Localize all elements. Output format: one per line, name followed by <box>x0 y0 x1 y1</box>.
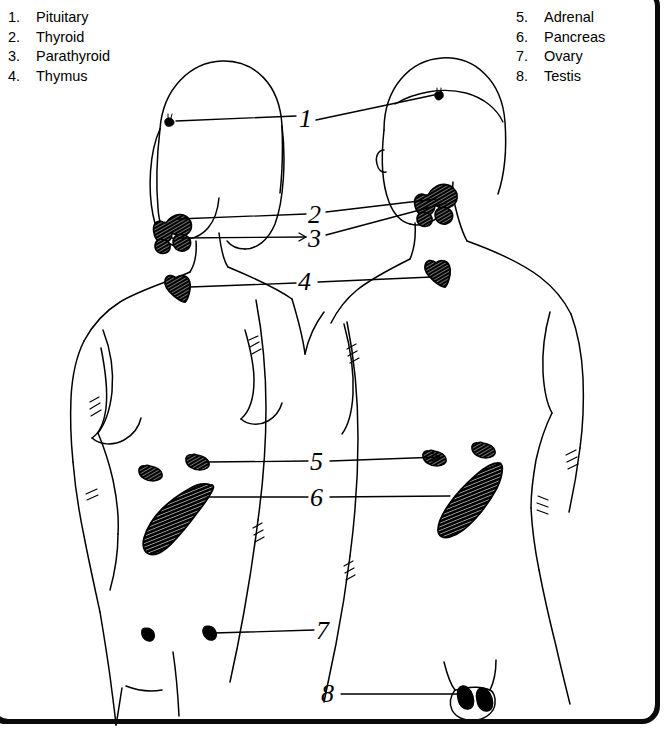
callout-number-4: 4 <box>298 267 311 296</box>
legend-item-ovary: 7. Ovary <box>516 47 605 67</box>
leader-1-female <box>176 116 296 121</box>
legend-label: Pituitary <box>36 8 88 28</box>
legend-left: 1. Pituitary 2. Thyroid 3. Parathyroid 4… <box>8 8 110 86</box>
legend-item-pancreas: 6. Pancreas <box>516 28 605 48</box>
legend-number: 3. <box>8 47 36 67</box>
legend-number: 8. <box>516 67 544 87</box>
leader-2-female <box>178 214 306 219</box>
legend-label: Adrenal <box>544 8 594 28</box>
gland-pituitary-female <box>165 114 174 126</box>
legend-label: Thymus <box>36 67 88 87</box>
callout-number-7: 7 <box>316 616 330 645</box>
legend-number: 2. <box>8 28 36 48</box>
callout-number-5: 5 <box>310 447 323 476</box>
gland-adrenal-female <box>139 454 209 481</box>
legend-number: 4. <box>8 67 36 87</box>
callout-numbers: 1 2 3 4 5 6 7 8 <box>298 104 334 708</box>
gland-pituitary-male <box>435 88 444 100</box>
endocrine-diagram-svg: 1 2 3 4 5 6 7 8 <box>0 0 669 736</box>
legend-item-parathyroid: 3. Parathyroid <box>8 47 110 67</box>
legend-number: 5. <box>516 8 544 28</box>
gland-thyroid-parathyroid-female <box>153 215 191 254</box>
leader-1-male <box>316 95 434 120</box>
legend-right: 5. Adrenal 6. Pancreas 7. Ovary 8. Testi… <box>516 8 605 86</box>
leader-6-male <box>330 496 450 497</box>
gland-pancreas-male <box>438 463 502 538</box>
legend-label: Testis <box>544 67 581 87</box>
legend-number: 1. <box>8 8 36 28</box>
gland-thymus-male <box>425 261 450 287</box>
gland-ovary-female <box>142 626 217 641</box>
callout-number-8: 8 <box>321 679 334 708</box>
leader-4-female <box>190 283 296 287</box>
leader-5-female <box>206 461 308 462</box>
legend-item-pituitary: 1. Pituitary <box>8 8 110 28</box>
legend-label: Pancreas <box>544 28 605 48</box>
legend-number: 7. <box>516 47 544 67</box>
male-torso-outline <box>292 241 583 721</box>
legend-item-adrenal: 5. Adrenal <box>516 8 605 28</box>
female-neck <box>190 233 228 272</box>
endocrine-diagram-canvas: 1 2 3 4 5 6 7 8 <box>0 0 669 736</box>
legend-label: Parathyroid <box>36 47 110 67</box>
gland-pancreas-female <box>143 484 213 554</box>
legend-number: 6. <box>516 28 544 48</box>
diagram-page: 1 2 3 4 5 6 7 8 1. Pituitary 2. Thyroid … <box>0 0 669 736</box>
callout-number-3: 3 <box>307 224 321 253</box>
legend-item-testis: 8. Testis <box>516 67 605 87</box>
gland-thymus-female <box>165 276 190 302</box>
legend-item-thyroid: 2. Thyroid <box>8 28 110 48</box>
legend-item-thymus: 4. Thymus <box>8 67 110 87</box>
leader-lines <box>176 95 464 694</box>
gland-testis-male <box>457 686 493 711</box>
leader-7-ovary <box>214 630 314 633</box>
legend-label: Ovary <box>544 47 583 67</box>
callout-number-1: 1 <box>299 104 312 133</box>
legend-label: Thyroid <box>36 28 84 48</box>
callout-number-6: 6 <box>310 483 323 512</box>
